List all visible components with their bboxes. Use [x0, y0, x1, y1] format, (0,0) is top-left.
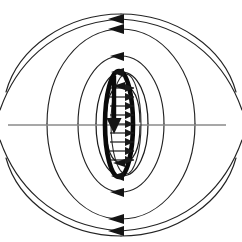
field-diagram-canvas	[0, 0, 242, 242]
magnetic-dipole-figure: Magnetic dipole field of a current loop …	[0, 0, 242, 242]
